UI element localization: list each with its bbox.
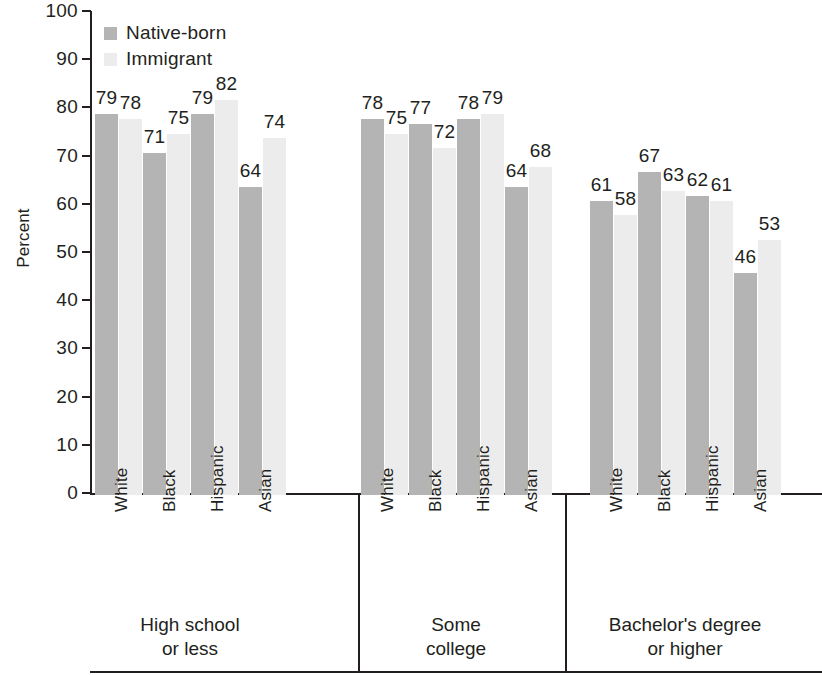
category-label-white: White bbox=[607, 468, 627, 512]
bar-value-label: 78 bbox=[458, 92, 480, 114]
group-label: High schoolor less bbox=[140, 613, 239, 661]
legend-swatch-native-born bbox=[104, 27, 117, 40]
legend-swatch-immigrant bbox=[104, 53, 117, 66]
bar-value-label: 79 bbox=[96, 87, 118, 109]
bar bbox=[263, 138, 286, 495]
category-label-black: Black bbox=[655, 469, 675, 512]
bar-value-label: 61 bbox=[711, 174, 733, 196]
category-label-black: Black bbox=[426, 469, 446, 512]
bar bbox=[409, 124, 432, 495]
group-label-line: or higher bbox=[609, 637, 762, 661]
group-label-line: or less bbox=[140, 637, 239, 661]
bar-value-label: 68 bbox=[530, 140, 552, 162]
bar bbox=[457, 119, 480, 495]
bar-value-label: 64 bbox=[506, 160, 528, 182]
legend-label-immigrant: Immigrant bbox=[126, 48, 212, 70]
bar-value-label: 64 bbox=[240, 160, 262, 182]
category-label-white: White bbox=[378, 468, 398, 512]
group-label-line: college bbox=[426, 637, 486, 661]
legend: Native-born Immigrant bbox=[104, 20, 226, 72]
bar bbox=[191, 114, 214, 495]
legend-label-native-born: Native-born bbox=[126, 22, 226, 44]
bar bbox=[119, 119, 142, 495]
bar bbox=[95, 114, 118, 495]
bar-value-label: 79 bbox=[482, 87, 504, 109]
category-label-hispanic: Hispanic bbox=[474, 445, 494, 512]
bar bbox=[167, 134, 190, 496]
bar bbox=[143, 153, 166, 495]
category-label-hispanic: Hispanic bbox=[208, 445, 228, 512]
bar bbox=[734, 273, 757, 495]
bar bbox=[662, 191, 685, 495]
group-label-line: Bachelor's degree bbox=[609, 613, 762, 637]
category-label-asian: Asian bbox=[522, 468, 542, 512]
grouped-bar-chart: Percent 1009080706050403020100 797871757… bbox=[0, 0, 822, 675]
bar-value-label: 53 bbox=[759, 213, 781, 235]
category-label-hispanic: Hispanic bbox=[703, 445, 723, 512]
group-label: Bachelor's degreeor higher bbox=[609, 613, 762, 661]
bar bbox=[614, 215, 637, 495]
bar-value-label: 71 bbox=[144, 126, 166, 148]
bar-value-label: 75 bbox=[386, 107, 408, 129]
bar bbox=[529, 167, 552, 495]
bar-value-label: 46 bbox=[735, 246, 757, 268]
bar-value-label: 77 bbox=[410, 97, 432, 119]
bar-value-label: 63 bbox=[663, 164, 685, 186]
bar bbox=[433, 148, 456, 495]
group-label: Somecollege bbox=[426, 613, 486, 661]
category-label-white: White bbox=[112, 468, 132, 512]
bar-value-label: 72 bbox=[434, 121, 456, 143]
bar-value-label: 79 bbox=[192, 87, 214, 109]
bar bbox=[505, 187, 528, 495]
legend-item-immigrant: Immigrant bbox=[104, 46, 226, 72]
bar-value-label: 62 bbox=[687, 169, 709, 191]
category-label-asian: Asian bbox=[751, 468, 771, 512]
bar-value-label: 58 bbox=[615, 188, 637, 210]
bar-value-label: 78 bbox=[120, 92, 142, 114]
bar bbox=[215, 100, 238, 495]
category-label-black: Black bbox=[160, 469, 180, 512]
bar bbox=[590, 201, 613, 495]
bar bbox=[361, 119, 384, 495]
bar bbox=[638, 172, 661, 495]
bar-value-label: 67 bbox=[639, 145, 661, 167]
bar-value-label: 61 bbox=[591, 174, 613, 196]
bar-value-label: 75 bbox=[168, 107, 190, 129]
bar-value-label: 74 bbox=[264, 111, 286, 133]
bar-value-label: 78 bbox=[362, 92, 384, 114]
panel-separator-line bbox=[565, 493, 567, 673]
panel-separator-line bbox=[358, 493, 360, 673]
category-label-asian: Asian bbox=[256, 468, 276, 512]
bottom-border-line bbox=[90, 671, 822, 673]
bar bbox=[239, 187, 262, 495]
bar bbox=[385, 134, 408, 496]
group-label-line: Some bbox=[426, 613, 486, 637]
bar-value-label: 82 bbox=[216, 73, 238, 95]
legend-item-native-born: Native-born bbox=[104, 20, 226, 46]
bar bbox=[481, 114, 504, 495]
bar bbox=[758, 240, 781, 495]
bars-layer bbox=[0, 0, 822, 495]
group-label-line: High school bbox=[140, 613, 239, 637]
